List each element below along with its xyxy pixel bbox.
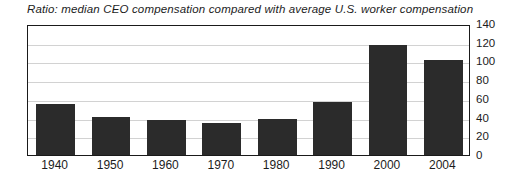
chart-title: Ratio: median CEO compensation compared …	[27, 3, 473, 15]
y-tick-label: 0	[476, 150, 482, 162]
x-tick-label: 1940	[41, 158, 68, 172]
y-tick-label: 100	[476, 57, 495, 69]
y-tick-label: 40	[476, 113, 489, 125]
x-tick-label: 2004	[429, 158, 456, 172]
x-tick-label: 1970	[207, 158, 234, 172]
bar	[424, 60, 463, 155]
y-tick-label: 120	[476, 38, 495, 50]
x-tick-label: 1980	[263, 158, 290, 172]
bar	[147, 120, 186, 155]
y-tick-label: 80	[476, 75, 489, 87]
x-tick-label: 2000	[374, 158, 401, 172]
bar	[313, 102, 352, 155]
x-tick-label: 1960	[152, 158, 179, 172]
bar	[202, 123, 241, 155]
y-tick-label: 140	[476, 19, 495, 31]
y-tick-label: 20	[476, 132, 489, 144]
x-tick-label: 1950	[97, 158, 124, 172]
y-tick-label: 60	[476, 94, 489, 106]
plot-area	[27, 25, 470, 156]
chart-figure: Ratio: median CEO compensation compared …	[0, 0, 512, 180]
bars-layer	[28, 26, 469, 155]
bar	[258, 119, 297, 155]
bar	[369, 45, 408, 155]
bar	[92, 117, 131, 155]
y-axis: 020406080100120140	[476, 25, 512, 156]
x-axis: 19401950196019701980199020002004	[27, 158, 470, 178]
x-tick-label: 1990	[318, 158, 345, 172]
bar	[36, 104, 75, 155]
